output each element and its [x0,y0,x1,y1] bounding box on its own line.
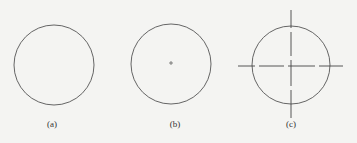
panel-c [238,10,343,118]
circle-a [14,25,94,105]
panel-b [131,24,211,104]
panel-a-label: (a) [47,119,57,129]
panel-b-label: (b) [170,119,181,129]
panel-c-label: (c) [286,119,296,129]
center-mark [169,61,173,65]
panel-a [14,25,94,105]
